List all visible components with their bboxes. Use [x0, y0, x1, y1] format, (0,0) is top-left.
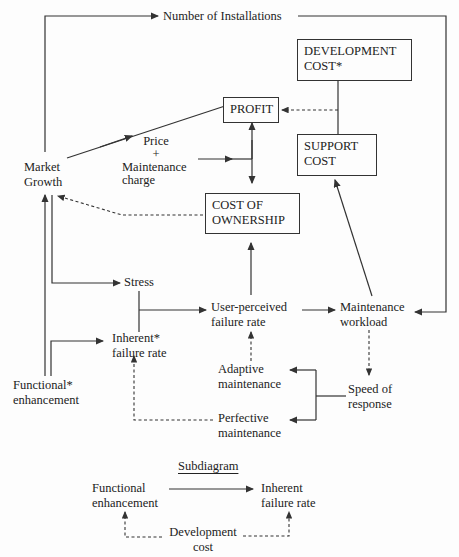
support-cost-line-2: COST	[304, 154, 370, 169]
sub-development-line-2: cost	[165, 540, 241, 555]
node-price-maintenance-charge: Price + Maintenance charge	[120, 135, 192, 187]
node-market-growth: Market Growth	[24, 160, 62, 190]
node-inherent-failure-rate: Inherent* failure rate	[112, 331, 166, 361]
user-failure-line-2: failure rate	[211, 315, 287, 330]
sub-development-line-1: Development	[165, 525, 241, 540]
node-cost-of-ownership: COST OF OWNERSHIP	[205, 193, 300, 234]
perfective-line-2: maintenance	[218, 426, 281, 441]
sub-functional-line-2: enhancement	[92, 496, 158, 511]
node-maintenance-workload: Maintenance workload	[340, 300, 405, 330]
maintenance-workload-line-1: Maintenance	[340, 300, 405, 315]
user-failure-line-1: User-perceived	[211, 300, 287, 315]
maintenance-workload-line-2: workload	[340, 315, 405, 330]
inherent-failure-line-1: Inherent*	[112, 331, 166, 346]
subdiagram-title: Subdiagram	[178, 459, 238, 474]
node-stress: Stress	[124, 275, 154, 290]
node-user-perceived-failure-rate: User-perceived failure rate	[211, 300, 287, 330]
node-functional-enhancement: Functional* enhancement	[13, 378, 79, 408]
inherent-failure-line-2: failure rate	[112, 346, 166, 361]
node-adaptive-maintenance: Adaptive maintenance	[218, 362, 281, 392]
node-development-cost: DEVELOPMENT COST*	[297, 39, 412, 81]
sub-inherent-line-1: Inherent	[261, 481, 315, 496]
adaptive-line-1: Adaptive	[218, 362, 281, 377]
development-cost-line-2: COST*	[304, 59, 405, 74]
cost-of-ownership-line-2: OWNERSHIP	[212, 213, 293, 228]
sub-inherent-line-2: failure rate	[261, 496, 315, 511]
subdiagram-inherent-failure-rate: Inherent failure rate	[261, 481, 315, 511]
development-cost-line-1: DEVELOPMENT	[304, 44, 405, 59]
market-growth-line-1: Market	[24, 160, 62, 175]
functional-line-1: Functional*	[13, 378, 79, 393]
diagram-canvas: Number of Installations DEVELOPMENT COST…	[0, 0, 459, 557]
subdiagram-functional-enhancement: Functional enhancement	[92, 481, 158, 511]
adaptive-line-2: maintenance	[218, 377, 281, 392]
profit-label: PROFIT	[230, 102, 272, 117]
node-profit: PROFIT	[223, 97, 279, 123]
cost-of-ownership-line-1: COST OF	[212, 198, 293, 213]
perfective-line-1: Perfective	[218, 411, 281, 426]
speed-line-2: response	[348, 397, 392, 412]
speed-line-1: Speed of	[348, 382, 392, 397]
node-speed-of-response: Speed of response	[348, 382, 392, 412]
market-growth-line-2: Growth	[24, 175, 62, 190]
price-line-4: charge	[122, 174, 192, 187]
node-perfective-maintenance: Perfective maintenance	[218, 411, 281, 441]
subdiagram-development-cost: Development cost	[165, 525, 241, 555]
sub-functional-line-1: Functional	[92, 481, 158, 496]
node-support-cost: SUPPORT COST	[297, 134, 377, 176]
support-cost-line-1: SUPPORT	[304, 139, 370, 154]
functional-line-2: enhancement	[13, 393, 79, 408]
node-number-of-installations: Number of Installations	[163, 9, 282, 24]
